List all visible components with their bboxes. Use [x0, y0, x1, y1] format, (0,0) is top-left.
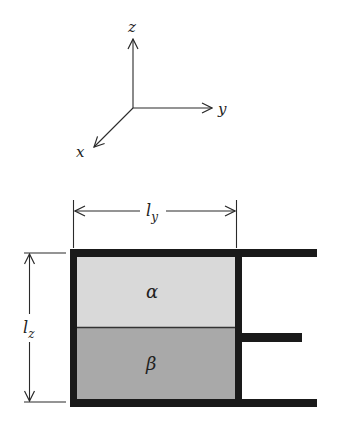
phase-alpha-label: α [146, 281, 158, 302]
bottom-wall-rail [70, 399, 317, 407]
x-axis-label: x [76, 143, 85, 161]
height-label: lz [23, 318, 35, 341]
y-axis-label: y [217, 100, 227, 118]
z-axis-label: z [127, 18, 136, 36]
width-dimension: ly [74, 200, 237, 248]
piston-head[interactable] [235, 249, 242, 407]
container: α β [70, 249, 317, 407]
piston-rod[interactable] [242, 333, 302, 342]
x-axis-arrow [94, 108, 133, 147]
left-wall [70, 249, 77, 407]
top-wall-rail [70, 249, 317, 257]
height-dimension: lz [23, 253, 66, 402]
coordinate-axes: z y x [76, 18, 227, 161]
piston[interactable] [235, 249, 302, 407]
width-label: ly [146, 201, 158, 224]
phase-diagram-canvas: z y x ly lz [0, 0, 340, 429]
phase-beta-label: β [145, 353, 156, 374]
